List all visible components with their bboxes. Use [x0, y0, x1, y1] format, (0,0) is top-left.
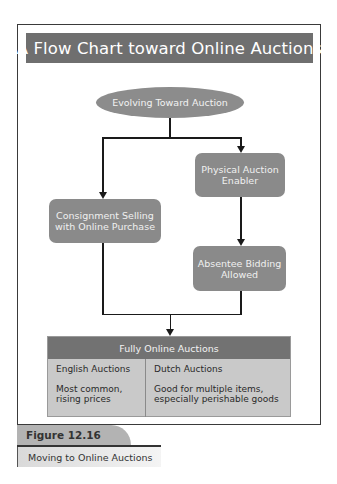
start-node-label: Evolving Toward Auction: [112, 97, 228, 108]
start-node-evolving-toward-auction: Evolving Toward Auction: [96, 87, 244, 118]
connector-merge-horizontal: [102, 314, 241, 316]
connector-merge-down: [170, 314, 172, 330]
table-header: Fully Online Auctions: [48, 337, 290, 359]
arrow-to-fully-online: [166, 329, 174, 336]
table-body: English Auctions Most common, rising pri…: [48, 359, 290, 417]
table-header-text: Fully Online Auctions: [119, 343, 218, 354]
arrow-to-physical: [237, 146, 245, 153]
connector-left-down: [102, 137, 104, 193]
node-physical-line1: Physical Auction: [201, 164, 279, 175]
arrow-to-absentee: [237, 239, 245, 246]
english-desc-line2: rising prices: [56, 394, 145, 405]
dutch-auctions-heading: Dutch Auctions: [154, 364, 290, 375]
connector-physical-to-absentee: [240, 197, 242, 240]
english-desc-line1: Most common,: [56, 384, 145, 395]
node-absentee-bidding-allowed: Absentee Bidding Allowed: [193, 246, 286, 291]
node-absentee-line2: Allowed: [198, 269, 282, 280]
figure-caption-text: Moving to Online Auctions: [28, 452, 152, 463]
node-physical-line2: Enabler: [201, 175, 279, 186]
fully-online-auctions-table: Fully Online Auctions English Auctions M…: [47, 336, 291, 417]
connector-absentee-down: [240, 291, 242, 315]
node-physical-auction-enabler: Physical Auction Enabler: [195, 153, 285, 197]
table-column-dutch: Dutch Auctions Good for multiple items, …: [146, 359, 290, 417]
dutch-desc-line2: especially perishable goods: [154, 394, 290, 405]
figure-caption: Moving to Online Auctions: [17, 447, 161, 467]
node-consignment-selling: Consignment Selling with Online Purchase: [49, 199, 161, 243]
node-consignment-line1: Consignment Selling: [55, 210, 155, 221]
node-consignment-line2: with Online Purchase: [55, 221, 155, 232]
figure-label: Figure 12.16: [17, 425, 131, 445]
english-auctions-heading: English Auctions: [56, 364, 145, 375]
figure-label-text: Figure 12.16: [26, 429, 101, 441]
diagram-title: A Flow Chart toward Online Auctions: [26, 33, 313, 63]
dutch-desc-line1: Good for multiple items,: [154, 384, 290, 395]
node-absentee-line1: Absentee Bidding: [198, 258, 282, 269]
connector-split-horizontal: [102, 137, 241, 139]
arrow-to-consignment: [99, 192, 107, 199]
connector-start-down: [169, 118, 171, 138]
table-column-english: English Auctions Most common, rising pri…: [48, 359, 146, 417]
connector-consignment-down: [102, 243, 104, 315]
diagram-title-text: A Flow Chart toward Online Auctions: [17, 39, 322, 58]
